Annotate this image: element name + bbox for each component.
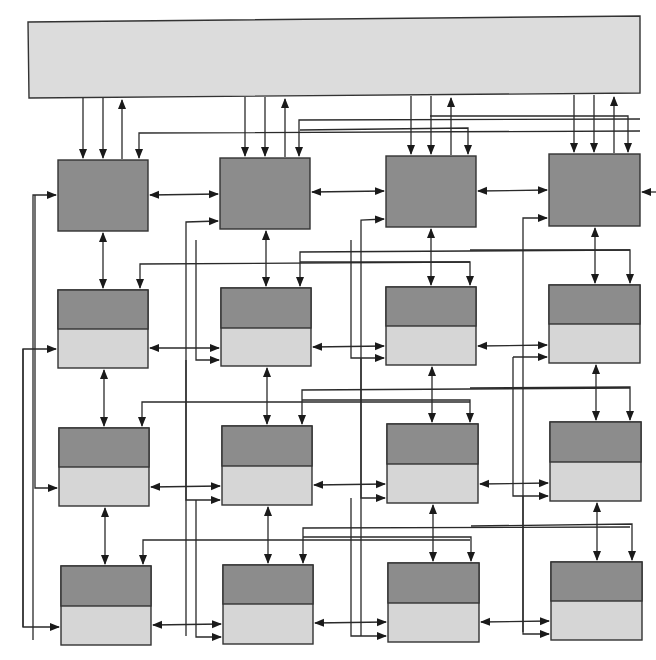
node-r0-c2 [386, 156, 476, 227]
multiprocessor-grid-diagram [0, 0, 656, 660]
node-r0-c3 [549, 154, 640, 226]
node-r1-c2 [386, 287, 476, 365]
host-bar [28, 16, 640, 98]
node-r0-c1 [220, 158, 310, 229]
row0-feed-lines [139, 116, 640, 158]
row2-feed-lines [142, 387, 630, 426]
row1-feed-lines [140, 250, 630, 288]
node-r0-c0 [58, 160, 148, 231]
node-r2-c0 [59, 428, 149, 506]
node-r2-c3 [550, 422, 641, 501]
horizontal-links [150, 190, 549, 625]
node-r1-c3 [549, 285, 640, 363]
node-r3-c2 [388, 563, 479, 642]
row3-feed-lines [143, 524, 632, 564]
node-r2-c2 [387, 424, 478, 503]
node-r3-c3 [551, 562, 642, 640]
node-r2-c1 [222, 426, 312, 505]
node-r1-c1 [221, 288, 311, 366]
node-r3-c0 [61, 566, 151, 645]
host-links [83, 95, 614, 159]
node-r3-c1 [223, 565, 313, 644]
node-r1-c0 [58, 290, 148, 368]
